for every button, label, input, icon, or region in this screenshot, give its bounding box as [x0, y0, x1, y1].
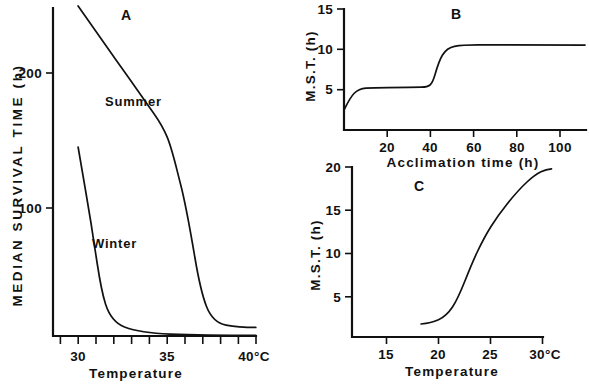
panel-c-x-tick-30: 30°C [529, 347, 560, 362]
panel-a-letter: A [121, 7, 131, 23]
panel-a-x-axis-title: Temperature [89, 366, 183, 381]
panel-a-x-tick-40: 40°C [238, 349, 269, 364]
panel-c-y-tick-20: 20 [325, 160, 341, 175]
panel-b-y-tick-5: 5 [325, 82, 333, 97]
panel-c-x-tick-20: 20 [430, 347, 446, 362]
panel-c-y-tick-10: 10 [325, 246, 341, 261]
panel-c-letter: C [414, 178, 424, 194]
panel-c-curve [421, 169, 552, 324]
panel-b-axes [344, 9, 586, 130]
panel-b: M.S.T. (h) 15 10 5 20 40 60 80 100 Accli… [300, 0, 589, 170]
panel-a-x-tick-30: 30 [70, 349, 86, 364]
panel-a: MEDIAN SURVIVAL TIME (h) 200 100 30 35 [0, 0, 300, 384]
figure-canvas: MEDIAN SURVIVAL TIME (h) 200 100 30 35 [0, 0, 589, 384]
panel-a-x-ticks [60, 336, 256, 344]
panel-a-curve-summer [78, 6, 256, 327]
panel-b-letter: B [451, 6, 461, 22]
panel-b-curve [345, 45, 586, 109]
panel-a-label-summer: Summer [105, 94, 162, 109]
panel-b-y-tick-10: 10 [317, 42, 333, 57]
panel-c-axes [352, 167, 543, 337]
panel-a-y-tick-100: 100 [19, 201, 42, 216]
panel-a-axes [53, 8, 256, 336]
panel-c-y-tick-5: 5 [333, 290, 341, 305]
panel-c-x-tick-15: 15 [378, 347, 394, 362]
panel-c: M.S.T. (h) 20 15 10 5 15 20 25 30°C Temp… [300, 150, 589, 384]
panel-b-y-tick-15: 15 [317, 2, 333, 17]
panel-c-x-axis-title: Temperature [405, 364, 499, 379]
panel-a-x-tick-35: 35 [159, 349, 175, 364]
panel-b-y-axis-title: M.S.T. (h) [303, 30, 318, 101]
panel-c-x-tick-25: 25 [482, 347, 498, 362]
panel-a-y-tick-200: 200 [19, 66, 42, 81]
panel-c-y-tick-15: 15 [325, 203, 341, 218]
panel-a-label-winter: Winter [92, 236, 137, 251]
panel-c-y-axis-title: M.S.T. (h) [308, 219, 323, 290]
panel-a-y-axis-title: MEDIAN SURVIVAL TIME (h) [10, 63, 25, 306]
